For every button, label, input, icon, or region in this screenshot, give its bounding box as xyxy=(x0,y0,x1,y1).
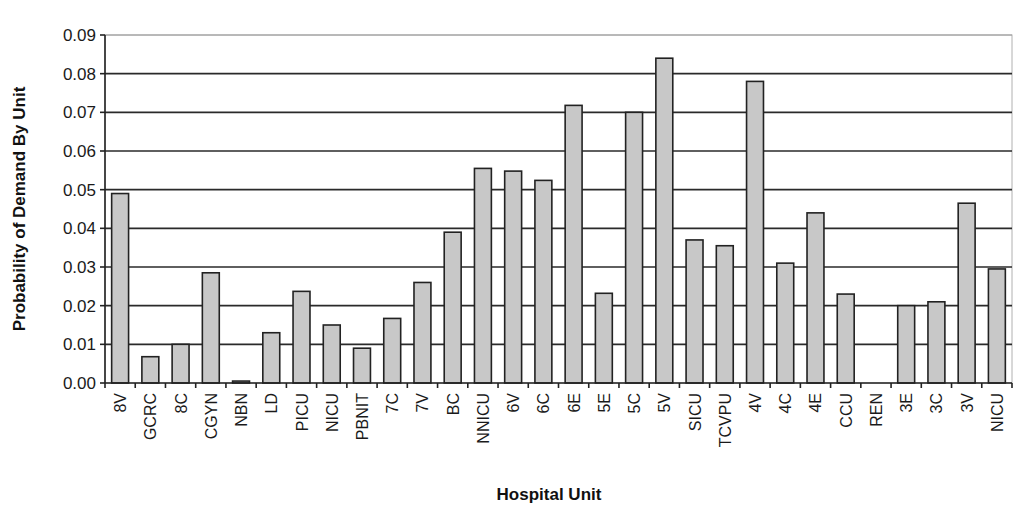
x-category-label: 7V xyxy=(414,393,431,413)
x-category-label: GCRC xyxy=(142,393,159,440)
bar-tcvpu xyxy=(716,246,733,383)
plot-area xyxy=(105,35,1012,383)
bar-4e xyxy=(807,213,824,383)
y-axis-title: Probability of Demand By Unit xyxy=(10,86,29,331)
bar-picu xyxy=(293,291,310,383)
y-tick-label: 0.02 xyxy=(63,297,96,316)
x-category-label: LD xyxy=(263,393,280,413)
x-category-label: 8C xyxy=(173,393,190,413)
x-category-label: 6V xyxy=(505,393,522,413)
y-tick-label: 0.01 xyxy=(63,335,96,354)
y-tick-label: 0.05 xyxy=(63,181,96,200)
x-category-label: PBNIT xyxy=(354,393,371,440)
y-tick-label: 0.09 xyxy=(63,26,96,45)
x-category-label: PICU xyxy=(294,393,311,431)
bars xyxy=(112,58,1006,383)
x-category-label: 5C xyxy=(626,393,643,413)
x-category-label: NICU xyxy=(989,393,1006,432)
x-category-label: 8V xyxy=(112,393,129,413)
bar-5e xyxy=(595,293,612,383)
bar-5v xyxy=(656,58,673,383)
y-tick-label: 0.00 xyxy=(63,374,96,393)
bar-4c xyxy=(777,263,794,383)
x-category-label: CCU xyxy=(838,393,855,428)
x-category-label: REN xyxy=(868,393,885,427)
y-tick-label: 0.04 xyxy=(63,219,96,238)
x-category-label: 4C xyxy=(777,393,794,413)
bar-5c xyxy=(626,112,643,383)
x-category-label: 3E xyxy=(898,393,915,413)
x-category-label: 6C xyxy=(535,393,552,413)
bar-sicu xyxy=(686,240,703,383)
x-category-label: 3V xyxy=(959,393,976,413)
bar-7v xyxy=(414,282,431,383)
bar-ccu xyxy=(837,294,854,383)
y-tick-label: 0.03 xyxy=(63,258,96,277)
bar-nnicu xyxy=(474,168,491,383)
x-category-label: 5E xyxy=(596,393,613,413)
bar-ld xyxy=(263,333,280,383)
x-category-label: NBN xyxy=(233,393,250,427)
y-axis-tick-labels: 0.000.010.020.030.040.050.060.070.080.09 xyxy=(63,26,96,393)
x-axis-category-labels: 8VGCRC8CCGYNNBNLDPICUNICUPBNIT7C7VBCNNIC… xyxy=(112,393,1006,448)
x-category-label: 7C xyxy=(384,393,401,413)
plot-frame xyxy=(105,35,1012,383)
bar-4v xyxy=(747,81,764,383)
axes xyxy=(100,35,1012,388)
bar-bc xyxy=(444,232,461,383)
gridlines xyxy=(105,35,1012,344)
bar-chart: 0.000.010.020.030.040.050.060.070.080.09… xyxy=(0,0,1024,505)
x-category-label: CGYN xyxy=(203,393,220,439)
x-category-label: 6E xyxy=(566,393,583,413)
bar-3v xyxy=(958,203,975,383)
bar-7c xyxy=(384,318,401,383)
x-category-label: SICU xyxy=(687,393,704,431)
bar-nicu xyxy=(323,325,340,383)
bar-nicu xyxy=(988,269,1005,383)
bar-pbnit xyxy=(354,348,371,383)
x-axis-title: Hospital Unit xyxy=(497,485,602,504)
bar-8v xyxy=(112,194,129,383)
bar-gcrc xyxy=(142,357,159,383)
x-category-label: BC xyxy=(445,393,462,415)
bar-8c xyxy=(172,344,189,383)
bar-3c xyxy=(928,302,945,383)
y-tick-label: 0.06 xyxy=(63,142,96,161)
x-category-label: 4E xyxy=(807,393,824,413)
bar-6v xyxy=(505,171,522,383)
bar-cgyn xyxy=(202,273,219,383)
x-category-label: 5V xyxy=(656,393,673,413)
x-category-label: NNICU xyxy=(475,393,492,444)
y-tick-label: 0.08 xyxy=(63,65,96,84)
x-category-label: 3C xyxy=(928,393,945,413)
bar-6c xyxy=(535,180,552,383)
bar-3e xyxy=(898,306,915,383)
x-category-label: 4V xyxy=(747,393,764,413)
x-category-label: NICU xyxy=(324,393,341,432)
bar-6e xyxy=(565,105,582,383)
y-tick-label: 0.07 xyxy=(63,103,96,122)
x-category-label: TCVPU xyxy=(717,393,734,447)
